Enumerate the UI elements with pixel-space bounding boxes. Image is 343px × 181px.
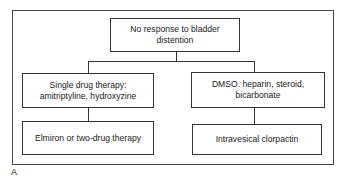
connector-to-left: [88, 61, 89, 73]
root-node-text: No response to bladder distention: [113, 24, 237, 46]
right-branch-node: DMSO. heparin, steroid, bicarbonate: [191, 72, 325, 108]
right-branch-text: DMSO. heparin, steroid, bicarbonate: [194, 79, 322, 101]
left-branch-node: Single drug therapy: amitriptyline, hydr…: [22, 73, 154, 108]
left-branch-text: Single drug therapy: amitriptyline, hydr…: [25, 80, 151, 102]
left-child-text: Elmiron or two-drug therapy: [35, 133, 141, 144]
connector-left-child: [88, 108, 89, 121]
panel-label: A: [11, 167, 17, 177]
left-child-node: Elmiron or two-drug therapy: [22, 121, 154, 155]
right-child-node: Intravesical clorpactin: [192, 124, 322, 155]
root-node: No response to bladder distention: [110, 18, 240, 52]
connector-right-child: [254, 108, 255, 124]
connector-horizontal: [88, 61, 254, 62]
right-child-text: Intravesical clorpactin: [216, 134, 299, 145]
